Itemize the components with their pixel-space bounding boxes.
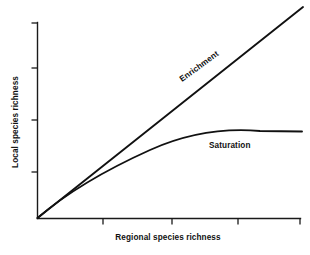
saturation-curve (38, 130, 303, 218)
saturation-label: Saturation (209, 141, 251, 150)
x-axis-title: Regional species richness (115, 233, 221, 242)
figure-canvas: Enrichment Saturation Regional species r… (0, 0, 310, 255)
y-axis-title: Local species richness (11, 76, 20, 168)
enrichment-curve (38, 7, 304, 218)
x-axis-ticks (103, 219, 300, 225)
species-richness-plot: Enrichment Saturation Regional species r… (0, 0, 310, 255)
y-axis-ticks (32, 23, 38, 172)
